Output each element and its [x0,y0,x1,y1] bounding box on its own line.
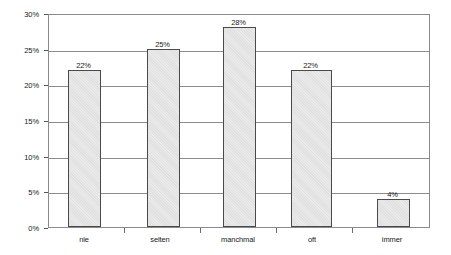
bar-value-label-immer: 4% [376,190,409,199]
bar-selten[interactable] [147,49,180,227]
bar-manchmal[interactable] [223,27,256,227]
bar-value-label-selten: 25% [146,40,179,49]
y-tick-mark-0 [44,228,48,229]
x-category-label-selten: selten [138,235,182,244]
y-tick-label-0: 0% [28,224,39,233]
y-tick-label-5: 5% [28,188,39,197]
x-tick-mark-3 [276,228,277,233]
y-axis: 30% 25% 20% 15% 10% 5% 0% [0,0,45,255]
bar-value-label-nie: 22% [67,61,100,70]
x-category-label-manchmal: manchmal [207,235,269,244]
bar-value-label-oft: 22% [290,61,331,70]
y-tick-label-30: 30% [24,10,39,19]
bar-nie[interactable] [68,70,101,227]
bar-immer[interactable] [377,199,410,228]
bar-oft[interactable] [291,70,332,227]
x-category-label-oft: oft [290,235,334,244]
x-tick-mark-1 [124,228,125,233]
x-category-label-immer: immer [368,235,416,244]
x-category-label-nie: nie [62,235,106,244]
bar-value-label-manchmal: 28% [222,18,255,27]
x-tick-mark-2 [200,228,201,233]
y-tick-label-10: 10% [24,152,39,161]
bar-chart-figure: 30% 25% 20% 15% 10% 5% 0% 22% 25% 28% 22… [0,0,451,255]
y-tick-label-20: 20% [24,81,39,90]
y-tick-label-25: 25% [24,45,39,54]
plot-area [48,14,430,228]
y-tick-label-15: 15% [24,117,39,126]
x-tick-mark-4 [352,228,353,233]
